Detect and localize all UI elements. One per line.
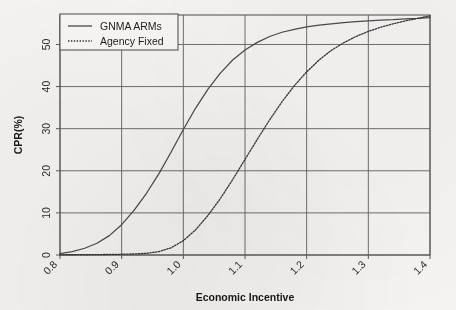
y-tick-label: 30 (40, 123, 52, 135)
x-axis-title: Economic Incentive (196, 291, 295, 303)
x-tick-label: 0.9 (102, 258, 121, 277)
chart-container: 0.80.91.01.11.21.31.401020304050Economic… (0, 0, 456, 310)
x-tick-label: 1.4 (411, 258, 430, 277)
x-tick-label: 1.3 (349, 258, 368, 277)
y-tick-label: 20 (40, 165, 52, 177)
x-tick-label: 1.2 (287, 258, 306, 277)
legend-label-gnma-arms: GNMA ARMs (100, 20, 162, 32)
y-tick-label: 50 (40, 38, 52, 50)
x-tick-label: 1.1 (226, 258, 245, 277)
line-chart: 0.80.91.01.11.21.31.401020304050Economic… (0, 0, 456, 310)
y-tick-label: 0 (40, 252, 52, 258)
y-axis-title: CPR(%) (12, 116, 24, 155)
x-tick-label: 1.0 (164, 258, 183, 277)
y-tick-label: 40 (40, 81, 52, 93)
x-tick-label: 0.8 (41, 258, 60, 277)
y-tick-label: 10 (40, 207, 52, 219)
legend-label-agency-fixed: Agency Fixed (100, 35, 164, 47)
